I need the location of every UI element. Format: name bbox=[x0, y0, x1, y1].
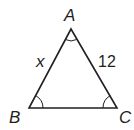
vertex-label-c: C bbox=[119, 108, 132, 127]
vertex-label-a: A bbox=[63, 6, 75, 25]
angle-mark-b bbox=[36, 96, 43, 108]
angle-mark-c bbox=[103, 96, 110, 108]
side-label-ab: x bbox=[35, 52, 45, 71]
vertex-label-b: B bbox=[9, 108, 20, 127]
side-label-ac: 12 bbox=[98, 53, 116, 70]
triangle-diagram: A B C x 12 bbox=[0, 0, 134, 130]
angle-mark-a bbox=[65, 40, 76, 41]
